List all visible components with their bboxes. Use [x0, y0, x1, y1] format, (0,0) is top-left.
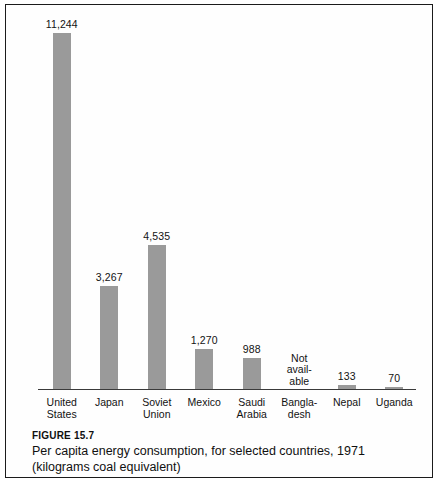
category-label-saudi-arabia: SaudiArabia: [226, 396, 278, 420]
bar-value-label: 11,244: [46, 18, 78, 30]
bar-rect[interactable]: [148, 245, 166, 389]
bar-soviet-union[interactable]: 4,535: [134, 9, 180, 389]
bar-value-label: 3,267: [96, 271, 123, 283]
category-label-soviet-union: SovietUnion: [131, 396, 183, 420]
bar-uganda[interactable]: 70: [371, 9, 417, 389]
not-available-note: Notavail-able: [277, 353, 321, 388]
category-label-united-states: UnitedStates: [36, 396, 88, 420]
figure-caption-block: FIGURE 15.7 Per capita energy consumptio…: [32, 430, 418, 475]
bar-value-label: 133: [338, 370, 356, 382]
bar-value-label: 4,535: [143, 230, 170, 242]
bar-united-states[interactable]: 11,244: [39, 9, 85, 389]
bar-rect[interactable]: [100, 286, 118, 389]
bar-mexico[interactable]: 1,270: [181, 9, 227, 389]
figure-number-label: FIGURE 15.7: [32, 430, 418, 441]
bar-value-label: 1,270: [191, 334, 218, 346]
bar-value-label: 70: [388, 372, 400, 384]
bar-rect[interactable]: [243, 358, 261, 389]
bar-japan[interactable]: 3,267: [86, 9, 132, 389]
bar-nepal[interactable]: 133: [324, 9, 370, 389]
category-label-uganda: Uganda: [368, 396, 420, 408]
figure-screenshot: 11,2443,2674,5351,270988Notavail-able133…: [0, 0, 439, 489]
category-label-bangladesh: Bangla-desh: [273, 396, 325, 420]
bar-value-label: 988: [243, 343, 261, 355]
bar-rect[interactable]: [385, 387, 403, 390]
bar-saudi-arabia[interactable]: 988: [229, 9, 275, 389]
category-label-mexico: Mexico: [178, 396, 230, 408]
bar-chart-plot-area: 11,2443,2674,5351,270988Notavail-able133…: [38, 11, 418, 396]
figure-frame: 11,2443,2674,5351,270988Notavail-able133…: [5, 4, 433, 478]
category-label-nepal: Nepal: [321, 396, 373, 408]
bar-bangladesh[interactable]: Notavail-able: [276, 9, 322, 389]
figure-caption-text: Per capita energy consumption, for selec…: [32, 444, 418, 475]
x-axis-category-labels: UnitedStatesJapanSovietUnionMexicoSaudiA…: [38, 396, 418, 426]
bar-rect[interactable]: [53, 33, 71, 389]
bar-rect[interactable]: [195, 349, 213, 389]
x-axis-line: [38, 389, 416, 390]
category-label-japan: Japan: [83, 396, 135, 408]
bar-rect[interactable]: [338, 385, 356, 389]
